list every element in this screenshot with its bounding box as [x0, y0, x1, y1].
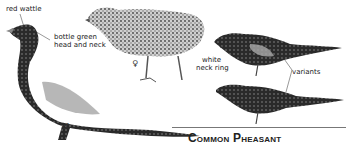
label-variants: variants: [292, 68, 320, 76]
male-symbol: ♂: [62, 122, 69, 131]
female-symbol: ♀: [132, 59, 138, 68]
label-bottle-green-2: head and neck: [54, 41, 106, 49]
title-rule: [172, 127, 346, 128]
caption-title: Common Pheasant: [188, 131, 281, 145]
label-bottle-green-1: bottle green: [54, 33, 97, 41]
label-red-wattle: red wattle: [6, 5, 41, 13]
label-white-ring-1: white: [202, 56, 221, 64]
label-white-ring-2: neck ring: [196, 64, 229, 72]
variant-pheasant-1: [214, 33, 342, 76]
variant-pheasant-2: [216, 70, 344, 124]
